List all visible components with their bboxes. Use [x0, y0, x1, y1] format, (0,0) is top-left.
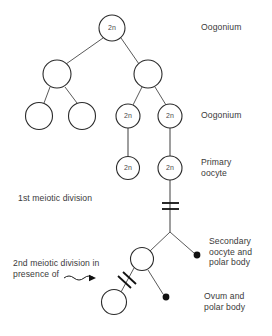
cell-primary-oocyte-left: 2n	[117, 157, 140, 180]
label-second-meiotic: 2nd meiotic division in presence of	[13, 258, 99, 279]
label-secondary-oocyte: Secondary oocyte and polar body	[209, 236, 252, 268]
label-primary-oocyte: Primary oocyte	[201, 157, 231, 178]
link-right-to-leaf3	[133, 87, 142, 105]
ploidy-label-oogonium-root: 2n	[108, 24, 116, 31]
cell-oogonium-left	[43, 60, 71, 88]
polar-body-second	[163, 294, 170, 301]
cell-oogonium-right	[134, 60, 162, 88]
link-left-to-leaf2	[65, 87, 77, 103]
link-left-to-leaf1	[44, 87, 50, 103]
label-first-meiotic: 1st meiotic division	[18, 193, 92, 204]
cell-oogonium-leaf-1	[26, 103, 53, 130]
oogenesis-diagram-page: 2n2n2n2n2n OogoniumOogoniumPrimary oocyt…	[0, 0, 272, 336]
circle-oogonium-right	[134, 60, 162, 88]
ploidy-label-primary-oocyte-left: 2n	[124, 164, 132, 171]
link-root-to-left	[66, 38, 103, 64]
ploidy-label-oogonium-leaf-3: 2n	[124, 112, 132, 119]
polar-body-first	[194, 252, 201, 259]
circle-oogonium-leaf-2	[69, 103, 96, 130]
polar-body-dots	[163, 252, 201, 301]
link-right-to-leaf4	[155, 87, 166, 105]
circle-ovum	[102, 290, 127, 315]
label-ovum: Ovum and polar body	[204, 291, 245, 312]
label-oogonium-top: Oogonium	[201, 22, 241, 33]
cell-secondary-oocyte	[131, 248, 154, 271]
branch-to-secondary	[150, 232, 170, 251]
cell-ovum	[102, 290, 127, 315]
cell-oogonium-leaf-3: 2n	[116, 104, 140, 128]
label-oogonium-second: Oogonium	[201, 110, 241, 121]
link-root-to-right	[121, 38, 139, 64]
ploidy-label-oogonium-leaf-4: 2n	[166, 112, 174, 119]
cell-oogonium-leaf-4: 2n	[158, 104, 182, 128]
secondary-to-polar2	[148, 270, 163, 294]
circle-secondary-oocyte	[131, 248, 154, 271]
circle-oogonium-leaf-1	[26, 103, 53, 130]
circle-oogonium-left	[43, 60, 71, 88]
cell-primary-oocyte-right: 2n	[158, 156, 182, 180]
ploidy-label-primary-oocyte-right: 2n	[166, 164, 174, 171]
branch-to-polar1	[170, 232, 194, 253]
cell-oogonium-root: 2n	[99, 15, 125, 41]
cell-oogonium-leaf-2	[69, 103, 96, 130]
